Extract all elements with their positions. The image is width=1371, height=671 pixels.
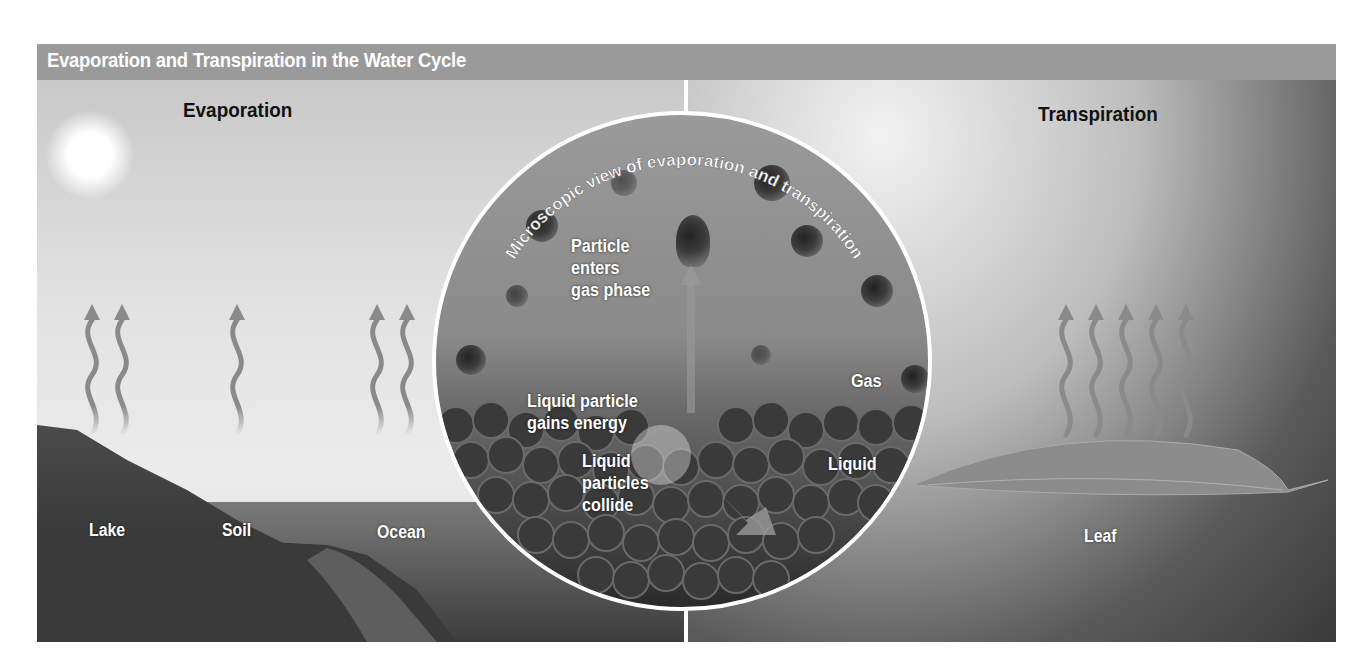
gas-particle — [861, 275, 893, 307]
gas-label: Gas — [851, 370, 882, 392]
gas-particle — [754, 165, 790, 201]
soil-label: Soil — [222, 520, 251, 541]
upward-arrow — [676, 265, 706, 415]
liquid-label: Liquid — [828, 453, 877, 475]
sun-icon — [45, 110, 135, 200]
evaporation-arrows — [77, 300, 457, 440]
collide-label: Liquid particles collide — [582, 450, 649, 516]
leaf-label: Leaf — [1084, 526, 1117, 547]
gas-particle — [456, 345, 486, 375]
gas-particle — [611, 170, 637, 196]
particle-enters-label: Particle enters gas phase — [571, 235, 650, 301]
gas-particle — [526, 210, 558, 242]
escaping-particle — [676, 215, 710, 267]
lake-label: Lake — [89, 520, 125, 541]
ocean-label: Ocean — [377, 522, 425, 543]
title-bar: Evaporation and Transpiration in the Wat… — [37, 44, 1336, 80]
figure-title: Evaporation and Transpiration in the Wat… — [47, 48, 466, 72]
transpiration-arrows — [1046, 300, 1226, 440]
figure: Evaporation and Transpiration in the Wat… — [37, 44, 1336, 642]
gains-energy-label: Liquid particle gains energy — [527, 390, 638, 434]
gas-particle — [751, 345, 771, 365]
gas-particle — [506, 285, 528, 307]
transpiration-heading: Transpiration — [1038, 102, 1158, 126]
gas-particle — [901, 365, 929, 393]
gas-particle — [791, 225, 823, 257]
microscopic-view-circle: Particle enters gas phase Liquid particl… — [432, 111, 932, 611]
leaf-illustration — [908, 430, 1336, 540]
liquid-particles — [436, 395, 932, 611]
evaporation-heading: Evaporation — [183, 98, 292, 122]
